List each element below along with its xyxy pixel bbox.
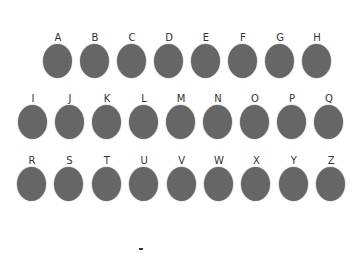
letter-item-e[interactable]: E: [191, 32, 221, 82]
circle-button[interactable]: [191, 44, 220, 78]
letter-item-j[interactable]: J: [55, 93, 85, 143]
letter-label: X: [241, 155, 271, 167]
footer-dash: [139, 248, 143, 250]
circle-button[interactable]: [129, 167, 158, 201]
circle-button[interactable]: [154, 44, 183, 78]
circle-button[interactable]: [117, 44, 146, 78]
circle-button[interactable]: [277, 105, 306, 139]
letter-label: P: [277, 93, 307, 105]
letter-item-r[interactable]: R: [17, 155, 47, 205]
circle-button[interactable]: [129, 105, 158, 139]
circle-button[interactable]: [92, 167, 121, 201]
circle-button[interactable]: [265, 44, 294, 78]
letter-item-c[interactable]: C: [117, 32, 147, 82]
letter-label: V: [167, 155, 197, 167]
circle-button[interactable]: [18, 105, 47, 139]
letter-label: T: [92, 155, 122, 167]
circle-button[interactable]: [203, 105, 232, 139]
letter-label: Z: [316, 155, 346, 167]
letter-item-m[interactable]: M: [166, 93, 196, 143]
letter-label: R: [17, 155, 47, 167]
circle-button[interactable]: [240, 105, 269, 139]
circle-button[interactable]: [167, 167, 196, 201]
letter-label: J: [55, 93, 85, 105]
circle-button[interactable]: [228, 44, 257, 78]
letter-label: O: [240, 93, 270, 105]
letter-item-u[interactable]: U: [129, 155, 159, 205]
circle-button[interactable]: [92, 105, 121, 139]
letter-label: D: [154, 32, 184, 44]
letter-label: I: [18, 93, 48, 105]
circle-button[interactable]: [316, 167, 345, 201]
circle-button[interactable]: [204, 167, 233, 201]
letter-label: F: [228, 32, 258, 44]
letter-label: S: [54, 155, 84, 167]
letter-label: K: [92, 93, 122, 105]
letter-item-t[interactable]: T: [92, 155, 122, 205]
circle-button[interactable]: [17, 167, 46, 201]
letter-item-h[interactable]: H: [302, 32, 332, 82]
circle-button[interactable]: [279, 167, 308, 201]
circle-button[interactable]: [166, 105, 195, 139]
circle-button[interactable]: [55, 105, 84, 139]
letter-item-o[interactable]: O: [240, 93, 270, 143]
circle-button[interactable]: [54, 167, 83, 201]
letter-item-v[interactable]: V: [167, 155, 197, 205]
letter-item-z[interactable]: Z: [316, 155, 346, 205]
letter-item-k[interactable]: K: [92, 93, 122, 143]
letter-label: L: [129, 93, 159, 105]
letter-item-n[interactable]: N: [203, 93, 233, 143]
letter-label: N: [203, 93, 233, 105]
letter-item-i[interactable]: I: [18, 93, 48, 143]
letter-label: W: [204, 155, 234, 167]
letter-label: Q: [314, 93, 344, 105]
letter-item-x[interactable]: X: [241, 155, 271, 205]
letter-item-q[interactable]: Q: [314, 93, 344, 143]
circle-button[interactable]: [80, 44, 109, 78]
letter-label: B: [80, 32, 110, 44]
letter-item-d[interactable]: D: [154, 32, 184, 82]
letter-item-b[interactable]: B: [80, 32, 110, 82]
letter-label: A: [43, 32, 73, 44]
letter-label: U: [129, 155, 159, 167]
letter-label: C: [117, 32, 147, 44]
letter-item-a[interactable]: A: [43, 32, 73, 82]
letter-label: M: [166, 93, 196, 105]
letter-item-w[interactable]: W: [204, 155, 234, 205]
letter-item-y[interactable]: Y: [279, 155, 309, 205]
letter-item-l[interactable]: L: [129, 93, 159, 143]
letter-label: Y: [279, 155, 309, 167]
letter-label: G: [265, 32, 295, 44]
circle-button[interactable]: [43, 44, 72, 78]
letter-item-f[interactable]: F: [228, 32, 258, 82]
letter-item-p[interactable]: P: [277, 93, 307, 143]
letter-item-s[interactable]: S: [54, 155, 84, 205]
circle-button[interactable]: [241, 167, 270, 201]
letter-label: H: [302, 32, 332, 44]
circle-button[interactable]: [314, 105, 343, 139]
letter-item-g[interactable]: G: [265, 32, 295, 82]
circle-button[interactable]: [302, 44, 331, 78]
letter-label: E: [191, 32, 221, 44]
